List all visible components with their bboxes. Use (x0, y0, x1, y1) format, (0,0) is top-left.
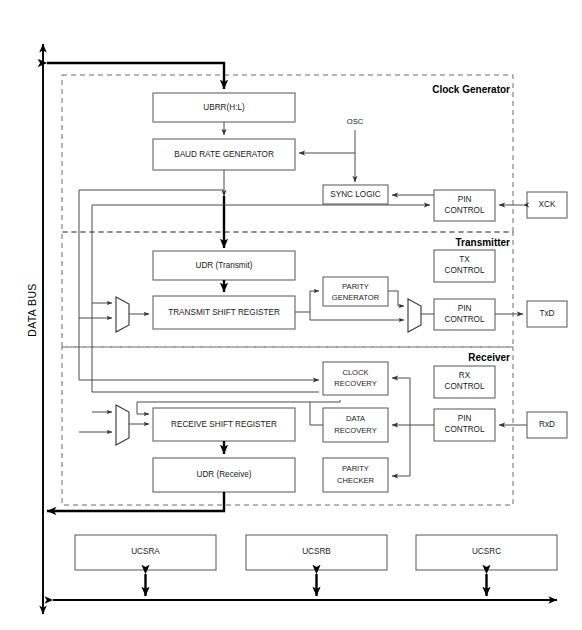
block-rx-pin-control-label-1: PIN (458, 414, 472, 423)
block-tx-pin-control-label-2: CONTROL (444, 315, 484, 324)
block-parity-generator-label-2: GENERATOR (332, 293, 380, 302)
data-bus: DATA BUS (26, 44, 43, 614)
block-transmit-shift-register-label: TRANSMIT SHIFT REGISTER (168, 308, 280, 317)
wire-tsr-to-parity (295, 291, 319, 312)
diagram-canvas: DATA BUS Clock Generator UBRR(H:L) BAUD … (0, 0, 582, 630)
mux-receive[interactable] (116, 405, 129, 445)
receiver-label: Receiver (468, 352, 510, 363)
block-rx-control-label-2: CONTROL (444, 382, 484, 391)
block-tx-pin-control-label-1: PIN (458, 304, 472, 313)
transmitter-label: Transmitter (456, 237, 511, 248)
wire-tsr-to-out-mux-b (310, 312, 404, 320)
transmitter-group: Transmitter UDR (Transmit) TRANSMIT SHIF… (79, 237, 567, 332)
receiver-group: Receiver CLOCK RECOVERY DATA RECOVERY PA… (47, 352, 567, 511)
data-bus-label: DATA BUS (26, 283, 38, 337)
wire-rx-pin-to-parity-checker (392, 425, 410, 476)
block-data-recovery-label-2: RECOVERY (334, 426, 376, 435)
block-clock-recovery-label-2: RECOVERY (334, 379, 376, 388)
wire-baud-branch-left (79, 190, 224, 380)
wire-rx-pin-to-clock-recovery (392, 378, 410, 425)
control-status-registers: UCSRA UCSRB UCSRC (53, 535, 557, 600)
block-rx-pin-control-label-2: CONTROL (444, 425, 484, 434)
clock-generator-group: Clock Generator UBRR(H:L) BAUD RATE GENE… (47, 63, 567, 392)
osc-label: OSC (347, 117, 364, 126)
mux-transmit[interactable] (116, 297, 129, 332)
clock-generator-label: Clock Generator (432, 84, 510, 95)
block-tx-control-label-1: TX (459, 255, 470, 264)
block-udr-receive-label: UDR (Receive) (196, 470, 251, 479)
block-ucsrb-label: UCSRB (302, 547, 331, 556)
block-ubrr-label: UBRR(H:L) (203, 103, 245, 112)
block-rxd-label: RxD (539, 420, 555, 429)
block-data-recovery-label-1: DATA (346, 414, 366, 423)
block-udr-transmit-label: UDR (Transmit) (195, 261, 252, 270)
block-clock-recovery-label-1: CLOCK (342, 368, 368, 377)
usart-block-diagram: DATA BUS Clock Generator UBRR(H:L) BAUD … (0, 0, 582, 630)
block-sync-logic-label: SYNC LOGIC (330, 190, 381, 199)
wire-parity-to-out-mux-a (388, 291, 404, 306)
mux-tx-output[interactable] (408, 299, 421, 332)
wire-bus-to-ubrr (47, 63, 224, 89)
block-rx-control-label-1: RX (459, 371, 471, 380)
block-xck-label: XCK (539, 200, 556, 209)
block-baud-rate-generator-label: BAUD RATE GENERATOR (174, 150, 274, 159)
block-clock-pin-control-label-2: CONTROL (444, 206, 484, 215)
block-txd-label: TxD (539, 309, 554, 318)
block-ucsra-label: UCSRA (131, 547, 160, 556)
wire-udr-receive-to-bus (47, 492, 224, 511)
block-receive-shift-register-label: RECEIVE SHIFT REGISTER (171, 420, 277, 429)
block-parity-checker-label-2: CHECKER (337, 476, 375, 485)
wire-data-recovery-to-rsr (310, 402, 323, 425)
block-parity-checker-label-1: PARITY (342, 464, 369, 473)
block-parity-generator-label-1: PARITY (342, 282, 369, 291)
block-ucsrc-label: UCSRC (472, 547, 501, 556)
block-clock-pin-control-label-1: PIN (458, 195, 472, 204)
block-tx-control-label-2: CONTROL (444, 266, 484, 275)
